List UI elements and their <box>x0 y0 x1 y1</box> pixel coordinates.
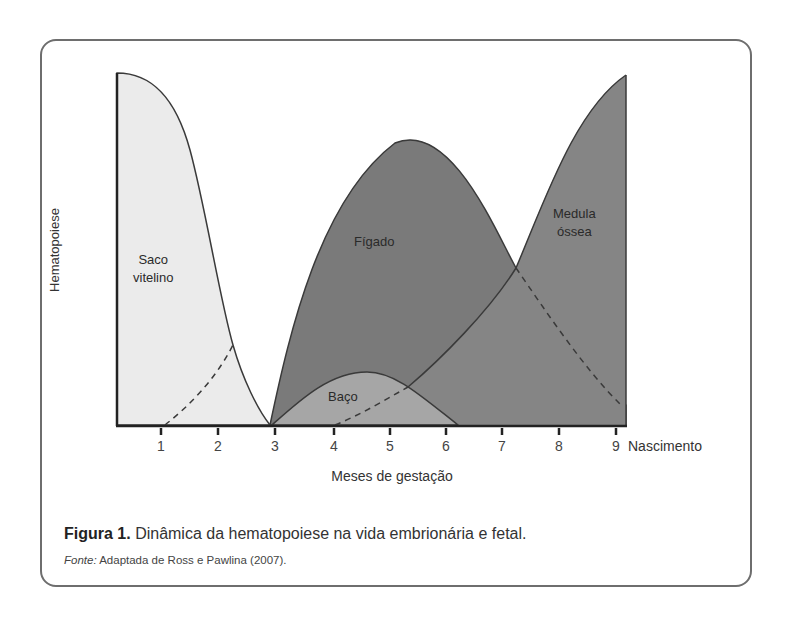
tick-label-4: 4 <box>330 438 338 454</box>
tick-label-5: 5 <box>386 438 394 454</box>
saco-vitelino-label: Saco vitelino <box>133 251 173 287</box>
caption-label: Figura 1. <box>64 525 131 542</box>
tick-label-2: 2 <box>214 438 222 454</box>
caption-text: Dinâmica da hematopoiese na vida embrion… <box>131 525 527 542</box>
tick-label-7: 7 <box>498 438 506 454</box>
source-text: Adaptada de Ross e Pawlina (2007). <box>97 554 287 566</box>
saco-vitelino-area <box>117 73 270 425</box>
medula-label-line2: óssea <box>553 223 596 241</box>
source-label: Fonte: <box>64 554 97 566</box>
x-axis-label: Meses de gestação <box>331 468 452 484</box>
baco-label: Baço <box>328 388 358 406</box>
tick-label-3: 3 <box>271 438 279 454</box>
medula-label-line1: Medula <box>553 205 596 223</box>
tick-label-1: 1 <box>157 438 165 454</box>
y-axis-label: Hematopoiese <box>47 208 62 292</box>
saco-label-line1: Saco <box>133 251 173 269</box>
x-ticks <box>161 428 616 435</box>
tick-label-9: 9 <box>612 438 620 454</box>
figure-source: Fonte: Adaptada de Ross e Pawlina (2007)… <box>64 554 286 566</box>
figure-caption: Figura 1. Dinâmica da hematopoiese na vi… <box>64 525 526 543</box>
birth-label: Nascimento <box>628 438 702 454</box>
tick-label-8: 8 <box>555 438 563 454</box>
tick-label-6: 6 <box>442 438 450 454</box>
medula-ossea-label: Medula óssea <box>553 205 596 241</box>
figado-label: Fígado <box>354 233 394 251</box>
saco-label-line2: vitelino <box>133 269 173 287</box>
